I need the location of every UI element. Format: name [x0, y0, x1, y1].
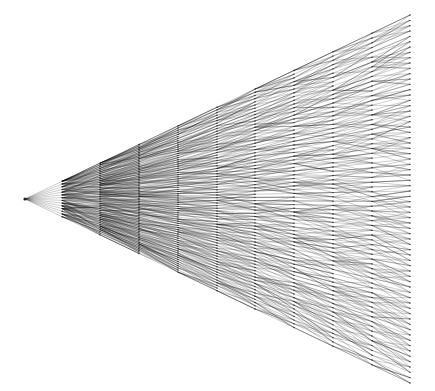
tree-edge [255, 104, 294, 111]
tree-node [371, 210, 372, 211]
tree-edge [217, 285, 255, 305]
tree-node [409, 340, 410, 341]
tree-edge [333, 38, 372, 56]
tree-edge [372, 168, 410, 181]
tree-node [177, 242, 178, 243]
tree-edge [217, 214, 255, 217]
tree-node [293, 211, 294, 212]
tree-node [177, 136, 178, 137]
tree-node [254, 184, 255, 185]
tree-node [371, 364, 372, 365]
tree-node [138, 215, 139, 216]
tree-node [216, 115, 217, 116]
tree-node [138, 164, 139, 165]
tree-node [177, 246, 178, 247]
tree-node [409, 84, 410, 85]
tree-edge [372, 164, 410, 167]
tree-edge [217, 254, 255, 262]
tree-node [332, 94, 333, 95]
tree-node [371, 47, 372, 48]
tree-node [332, 111, 333, 112]
tree-node [332, 188, 333, 189]
tree-node [293, 237, 294, 238]
tree-node [177, 201, 178, 202]
tree-node [138, 202, 139, 203]
tree-node [332, 307, 333, 308]
tree-node [216, 290, 217, 291]
tree-edge [333, 321, 372, 351]
tree-node [332, 243, 333, 244]
tree-node [254, 162, 255, 163]
tree-node [332, 294, 333, 295]
tree-node [371, 206, 372, 207]
tree-edge [333, 184, 372, 187]
tree-node [409, 222, 410, 223]
tree-node [332, 346, 333, 347]
tree-node [138, 234, 139, 235]
tree-node [99, 185, 100, 186]
tree-node [254, 178, 255, 179]
tree-node [138, 207, 139, 208]
tree-node [332, 72, 333, 73]
tree-node [254, 101, 255, 102]
tree-node [371, 172, 372, 173]
tree-node [177, 238, 178, 239]
tree-node [138, 161, 139, 162]
tree-node [177, 208, 178, 209]
tree-node [332, 316, 333, 317]
tree-node [371, 114, 372, 115]
tree-node [177, 254, 178, 255]
tree-edge [294, 86, 333, 100]
tree-node [99, 229, 100, 230]
tree-node [409, 110, 410, 111]
tree-node [332, 328, 333, 329]
tree-node [293, 118, 294, 119]
tree-node [409, 318, 410, 319]
tree-node [293, 245, 294, 246]
tree-node [177, 132, 178, 133]
tree-node [293, 81, 294, 82]
tree-node [216, 242, 217, 243]
tree-edge [333, 52, 372, 68]
tree-node [371, 129, 372, 130]
tree-node [216, 130, 217, 131]
tree-node [409, 313, 410, 314]
tree-node [99, 190, 100, 191]
tree-node [371, 157, 372, 158]
tree-node [254, 146, 255, 147]
tree-node [409, 52, 410, 53]
tree-edge [333, 173, 372, 176]
tree-node [293, 256, 294, 257]
tree-node [216, 136, 217, 137]
tree-node [99, 183, 100, 184]
tree-node [99, 196, 100, 197]
tree-node [409, 366, 410, 367]
tree-edge [294, 212, 333, 227]
tree-node [409, 68, 410, 69]
tree-node [293, 103, 294, 104]
tree-node [371, 148, 372, 149]
tree-node [177, 233, 178, 234]
tree-node [138, 183, 139, 184]
tree-node [293, 230, 294, 231]
tree-node [409, 30, 410, 31]
tree-node [216, 237, 217, 238]
tree-edge [333, 316, 372, 331]
tree-node [138, 160, 139, 161]
tree-node [61, 216, 62, 217]
tree-node [177, 142, 178, 143]
tree-node [332, 196, 333, 197]
tree-edge [372, 223, 410, 225]
tree-edge [294, 320, 333, 338]
tree-node [216, 261, 217, 262]
tree-edge [372, 326, 410, 351]
tree-node [254, 219, 255, 220]
tree-node [409, 356, 410, 357]
tree-node [409, 62, 410, 63]
tree-node [409, 265, 410, 266]
tree-edge [372, 216, 410, 234]
tree-edge [372, 302, 410, 329]
tree-node [138, 218, 139, 219]
tree-root-node [23, 197, 26, 200]
tree-node [254, 260, 255, 261]
